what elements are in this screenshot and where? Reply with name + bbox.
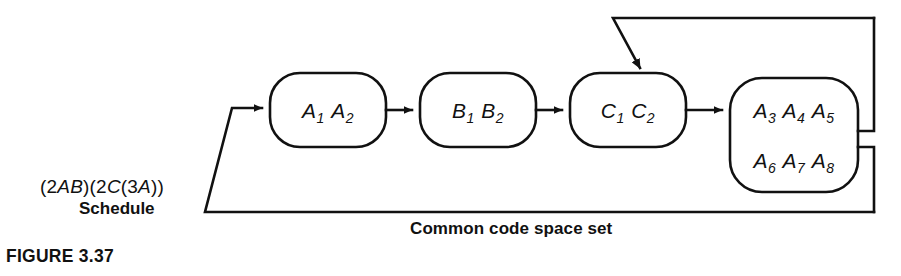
schedule-expression: (2AB)(2C(3A)) — [40, 176, 164, 198]
stage-a6-a8-label: A6 A7 A8 — [751, 149, 834, 176]
feedback-top-riser — [858, 18, 874, 131]
stage-b1-b2-label: B1 B2 — [452, 99, 504, 126]
stage-a1-a2-label: A1 A2 — [300, 99, 354, 126]
stage-a3-a5-label: A3 A4 A5 — [751, 99, 834, 126]
stage-c1-c2-label: C1 C2 — [601, 99, 655, 126]
stage-a3-a8-shape — [730, 78, 858, 192]
feedback-top-path — [613, 18, 874, 68]
figure-container: A1 A2 B1 B2 C1 C2 A3 A4 A5 A6 A7 A8 (2AB… — [0, 0, 901, 276]
schedule-label: Schedule — [79, 199, 155, 219]
common-code-space-label: Common code space set — [410, 219, 612, 239]
feedback-bottom-riser — [858, 147, 874, 212]
figure-caption: FIGURE 3.37 — [6, 245, 114, 267]
